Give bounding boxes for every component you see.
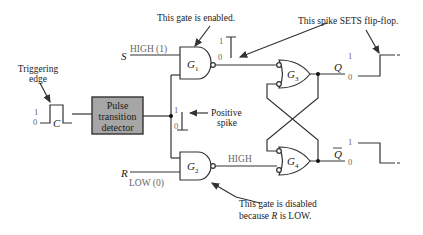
clock-level-high: 1 [34,107,38,117]
qbar-level-high: 1 [348,137,352,147]
c-input-label: C [53,117,61,129]
detector-label-1: Pulse [107,100,129,111]
negative-spike-icon [226,37,236,58]
clock-level-low: 0 [33,117,37,127]
qbar-level-low: 0 [348,157,352,167]
r-input-label: R [120,167,128,179]
g1-nand-gate [180,47,211,79]
qbar-output-label: Q [334,148,342,160]
q-output-label: Q [334,61,342,73]
detector-label-3: detector [101,122,134,133]
g1-out-level-low: 0 [218,52,222,62]
spike-sets-annotation: This spike SETS flip-flop. [298,16,398,26]
g4-label: G4 [287,155,299,170]
g1-enabled-annotation: This gate is enabled. [157,13,235,23]
g1-out-level-high: 1 [219,36,223,46]
g2-nand-gate [180,152,211,180]
g1-label: G1 [187,58,199,73]
r-state-label: LOW (0) [129,178,164,189]
q-level-low: 0 [348,72,352,82]
positive-spike-label-2: spike [217,118,237,128]
qbar-waveform [358,143,392,163]
q-waveform [358,55,392,76]
g2-disabled-annotation-2: because R is LOW. [239,211,312,221]
g2-output-state: HIGH [228,154,252,164]
positive-spike-icon [177,112,188,130]
detector-label-2: transition [99,111,137,122]
spike-level-high: 1 [174,105,178,115]
positive-spike-label: Positive [211,108,242,118]
g3-label: G3 [287,68,299,83]
triggering-edge-label: Triggering [18,64,59,74]
spike-level-low: 0 [174,121,178,131]
q-level-high: 1 [348,51,352,61]
g2-label: G2 [187,160,199,175]
sr-flip-flop-diagram: Pulse transition detector Triggering edg… [0,0,423,235]
g2-disabled-annotation: This gate is disabled [239,199,317,209]
s-state-label: HIGH (1) [130,44,167,55]
s-input-label: S [121,50,127,62]
triggering-edge-label-2: edge [29,74,47,84]
